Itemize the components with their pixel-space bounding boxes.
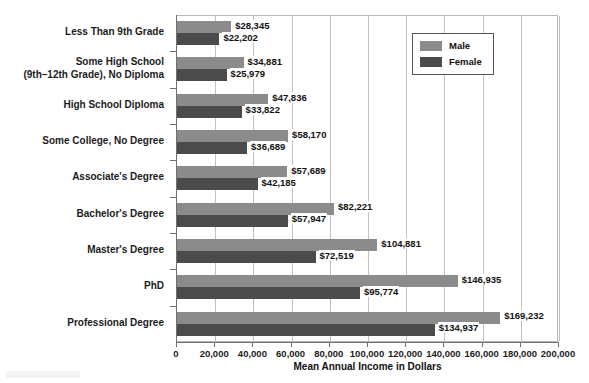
bar-female bbox=[177, 33, 219, 45]
x-axis-tick bbox=[405, 342, 406, 347]
x-axis-tick-label: 200,000 bbox=[541, 348, 575, 359]
bar-value-label-female: $22,202 bbox=[222, 32, 258, 43]
bar-female bbox=[177, 142, 247, 154]
bar-group: $58,170$36,689 bbox=[177, 125, 557, 161]
y-axis-tick bbox=[170, 306, 177, 307]
x-axis-tick bbox=[214, 342, 215, 347]
bar-value-label-female: $42,185 bbox=[261, 177, 297, 188]
y-axis-category-label-line2: (9th–12th Grade), No Diploma bbox=[23, 69, 164, 80]
bar-value-label-female: $33,822 bbox=[245, 104, 281, 115]
x-axis-tick-label: 20,000 bbox=[200, 348, 229, 359]
bar-value-label-male: $82,221 bbox=[337, 201, 373, 212]
bar-group: $104,881$72,519 bbox=[177, 234, 557, 270]
y-axis-category-label: High School Diploma bbox=[0, 99, 164, 112]
x-axis-tick bbox=[558, 342, 559, 347]
bar-group: $47,836$33,822 bbox=[177, 89, 557, 125]
bar-group: $146,935$95,774 bbox=[177, 270, 557, 306]
x-axis-tick bbox=[252, 342, 253, 347]
x-axis-tick-label: 140,000 bbox=[426, 348, 460, 359]
bar-group: $57,689$42,185 bbox=[177, 161, 557, 197]
legend-swatch-male bbox=[420, 41, 442, 51]
bar-value-label-male: $47,836 bbox=[271, 92, 307, 103]
bar-female bbox=[177, 215, 288, 227]
x-axis-tick bbox=[367, 342, 368, 347]
bar-value-label-female: $134,937 bbox=[438, 322, 480, 333]
x-axis-tick bbox=[329, 342, 330, 347]
y-axis-tick bbox=[170, 269, 177, 270]
y-axis-line bbox=[176, 15, 177, 343]
x-axis-tick bbox=[443, 342, 444, 347]
bar-value-label-male: $104,881 bbox=[380, 238, 422, 249]
plot-area: $28,345$22,202$34,881$25,979$47,836$33,8… bbox=[176, 15, 558, 342]
bar-value-label-male: $58,170 bbox=[291, 129, 327, 140]
x-axis-title: Mean Annual Income in Dollars bbox=[176, 361, 559, 372]
bar-value-label-male: $34,881 bbox=[247, 56, 283, 67]
bar-group: $169,232$134,937 bbox=[177, 307, 557, 343]
x-axis-tick bbox=[482, 342, 483, 347]
bar-female bbox=[177, 69, 227, 81]
y-axis-tick bbox=[170, 233, 177, 234]
legend-swatch-female bbox=[420, 57, 442, 67]
y-axis-tick bbox=[170, 197, 177, 198]
y-axis-category-label: PhD bbox=[0, 280, 164, 293]
bar-value-label-male: $28,345 bbox=[234, 20, 270, 31]
bar-value-label-male: $169,232 bbox=[503, 310, 545, 321]
y-axis-category-label: Some College, No Degree bbox=[0, 135, 164, 148]
x-axis-tick bbox=[176, 342, 177, 347]
bar-female bbox=[177, 106, 242, 118]
x-axis-tick-label: 160,000 bbox=[464, 348, 498, 359]
x-axis-tick-label: 100,000 bbox=[350, 348, 384, 359]
bar-group: $34,881$25,979 bbox=[177, 52, 557, 88]
bar-value-label-female: $36,689 bbox=[250, 141, 286, 152]
y-axis-tick bbox=[170, 160, 177, 161]
bar-group: $28,345$22,202 bbox=[177, 16, 557, 52]
x-axis-tick bbox=[520, 342, 521, 347]
x-axis-tick-label: 0 bbox=[173, 348, 178, 359]
y-axis-category-label: Bachelor's Degree bbox=[0, 208, 164, 221]
x-axis-tick-label: 80,000 bbox=[314, 348, 343, 359]
x-axis-tick bbox=[291, 342, 292, 347]
legend-label-female: Female bbox=[449, 56, 482, 68]
bar-female bbox=[177, 287, 360, 299]
legend: Male Female bbox=[412, 33, 494, 75]
y-axis-category-label: Less Than 9th Grade bbox=[0, 26, 164, 39]
x-axis-tick-label: 40,000 bbox=[238, 348, 267, 359]
bar-female bbox=[177, 251, 316, 263]
x-axis-tick-label: 60,000 bbox=[276, 348, 305, 359]
bar-female bbox=[177, 178, 258, 190]
bar-group: $82,221$57,947 bbox=[177, 198, 557, 234]
legend-label-male: Male bbox=[449, 40, 470, 52]
y-axis-category-label: Some High School(9th–12th Grade), No Dip… bbox=[0, 56, 164, 81]
bar-value-label-female: $95,774 bbox=[363, 286, 399, 297]
income-by-education-bar-chart: $28,345$22,202$34,881$25,979$47,836$33,8… bbox=[0, 0, 589, 383]
y-axis-category-label: Professional Degree bbox=[0, 317, 164, 330]
y-axis-category-label: Master's Degree bbox=[0, 244, 164, 257]
x-axis-tick-label: 180,000 bbox=[503, 348, 537, 359]
bar-male bbox=[177, 275, 458, 287]
gridline bbox=[559, 16, 560, 341]
bar-value-label-female: $72,519 bbox=[319, 250, 355, 261]
y-axis-tick bbox=[170, 124, 177, 125]
bar-value-label-female: $25,979 bbox=[230, 68, 266, 79]
y-axis-tick bbox=[170, 88, 177, 89]
bar-value-label-male: $57,689 bbox=[290, 165, 326, 176]
bar-value-label-female: $57,947 bbox=[291, 213, 327, 224]
y-axis-tick bbox=[170, 51, 177, 52]
x-axis-tick-label: 120,000 bbox=[388, 348, 422, 359]
bar-value-label-male: $146,935 bbox=[461, 274, 503, 285]
y-axis-category-label: Associate's Degree bbox=[0, 171, 164, 184]
bar-female bbox=[177, 324, 435, 336]
scan-artifact bbox=[6, 371, 80, 378]
